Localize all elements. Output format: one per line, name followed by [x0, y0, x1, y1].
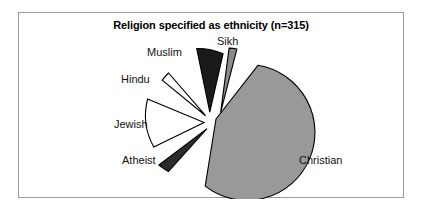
pie-slice-christian[interactable] [205, 65, 315, 199]
pie-slice-muslim[interactable] [197, 48, 223, 112]
pie-label-sikh: Sikh [217, 35, 238, 47]
pie-label-hindu: Hindu [121, 73, 150, 85]
pie-label-christian: Christian [299, 154, 342, 166]
pie-label-muslim: Muslim [147, 46, 182, 58]
pie-label-atheist: Atheist [122, 154, 156, 166]
pie-label-jewish: Jewish [114, 118, 148, 130]
chart-screenshot: Religion specified as ethnicity (n=315) … [0, 0, 423, 214]
pie-chart [19, 13, 405, 199]
chart-frame: Religion specified as ethnicity (n=315) … [18, 12, 404, 198]
